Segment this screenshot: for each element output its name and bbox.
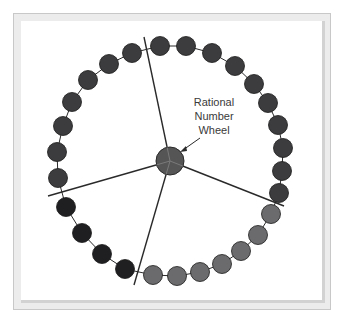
wheel-label: Rational Number Wheel [183,95,245,137]
bead-top-right [273,162,292,181]
bead-left [123,44,142,63]
bead-left [100,55,119,74]
bead-top-right [177,37,196,56]
arrow-icon [180,138,200,152]
divider-line-2 [170,161,284,206]
bead-left [54,117,73,136]
bead-top-right [226,57,245,76]
bead-bottom-right [262,205,281,224]
bead-top-right [269,116,288,135]
bead-bottom-left [116,260,135,279]
label-line-2: Number [183,109,245,123]
bead-bottom-right [168,267,187,286]
label-line-1: Rational [183,95,245,109]
bead-bottom-right [213,255,232,274]
bead-top-right [259,94,278,113]
bead-bottom-right [144,266,163,285]
bead-left [49,169,68,188]
label-line-3: Wheel [183,123,245,137]
bead-bottom-left [73,224,92,243]
bead-top-right [151,37,170,56]
bead-left [63,93,82,112]
bead-bottom-left [57,198,76,217]
bead-bottom-left [93,245,112,264]
bead-top-right [203,44,222,63]
rational-number-wheel [0,0,346,323]
bead-left [79,71,98,90]
bead-bottom-right [249,226,268,245]
divider-line-1 [144,37,170,161]
bead-top-right [245,75,264,94]
bead-top-right [270,184,289,203]
bead-left [48,143,67,162]
bead-top-right [274,139,293,158]
hub-icon [156,147,184,175]
bead-bottom-right [232,242,251,261]
bead-bottom-right [191,263,210,282]
